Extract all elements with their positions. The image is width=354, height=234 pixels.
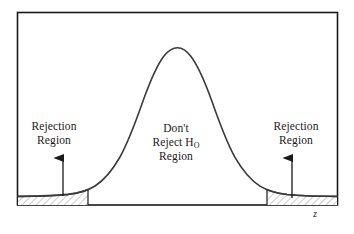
statistics-figure: Rejection Region Don't Reject HO Region … — [0, 0, 354, 234]
normal-curve-plot — [0, 0, 354, 234]
right-rejection-shaded-area — [267, 190, 337, 205]
axis-variable-label: z — [306, 209, 324, 219]
dont-reject-line-1: Don't — [135, 122, 217, 136]
right-rejection-line-1: Rejection — [256, 120, 336, 134]
right-rejection-line-2: Region — [256, 134, 336, 148]
left-rejection-line-2: Region — [14, 134, 94, 148]
right-rejection-region-label: Rejection Region — [256, 120, 336, 147]
left-rejection-region-label: Rejection Region — [14, 120, 94, 147]
dont-reject-line-3: Region — [135, 150, 217, 164]
dont-reject-line-2: Reject HO — [135, 136, 217, 150]
null-hypothesis-text: Reject H — [152, 136, 193, 148]
null-hypothesis-subscript: O — [194, 140, 200, 149]
do-not-reject-region-label: Don't Reject HO Region — [135, 122, 217, 163]
left-rejection-line-1: Rejection — [14, 120, 94, 134]
figure-border — [18, 13, 338, 206]
